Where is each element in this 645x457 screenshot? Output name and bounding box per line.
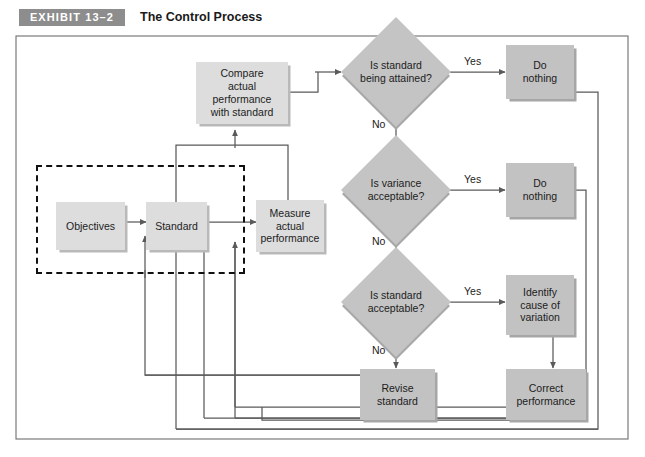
flowchart-canvas: Objectives Standard Measure actual perfo…	[0, 30, 645, 457]
node-objectives-label: Objectives	[66, 220, 115, 233]
node-standard[interactable]: Standard	[146, 202, 207, 250]
decision-is-variance-acceptable-label: Is variance acceptable?	[341, 135, 451, 245]
edge-label-no-3: No	[372, 344, 385, 356]
edge-label-yes-3: Yes	[464, 285, 481, 297]
decision-is-standard-acceptable[interactable]: Is standard acceptable?	[341, 247, 451, 357]
node-revise-standard[interactable]: Revise standard	[360, 369, 435, 420]
node-do-nothing-2[interactable]: Do nothing	[506, 163, 574, 217]
node-do-nothing-1[interactable]: Do nothing	[506, 45, 574, 99]
node-do-nothing-2-label: Do nothing	[523, 177, 557, 203]
exhibit-number-badge: EXHIBIT 13–2	[19, 9, 125, 26]
edge-label-no-1: No	[372, 118, 385, 130]
node-do-nothing-1-label: Do nothing	[523, 59, 557, 85]
node-measure-actual-performance[interactable]: Measure actual performance	[256, 200, 324, 252]
decision-is-variance-acceptable[interactable]: Is variance acceptable?	[341, 135, 451, 245]
exhibit-page: EXHIBIT 13–2 The Control Process	[0, 0, 645, 457]
exhibit-header: EXHIBIT 13–2 The Control Process	[0, 0, 645, 32]
node-identify-cause-of-variation-label: Identify cause of variation	[520, 286, 560, 324]
decision-is-standard-being-attained-label: Is standard being attained?	[341, 17, 451, 127]
node-identify-cause-of-variation[interactable]: Identify cause of variation	[506, 275, 574, 335]
node-correct-performance[interactable]: Correct performance	[506, 369, 586, 420]
decision-is-standard-being-attained[interactable]: Is standard being attained?	[341, 17, 451, 127]
node-standard-label: Standard	[155, 220, 198, 233]
node-compare-actual-performance[interactable]: Compare actual performance with standard	[196, 62, 288, 124]
node-correct-performance-label: Correct performance	[517, 382, 576, 408]
edge-label-yes-1: Yes	[464, 55, 481, 67]
node-compare-actual-performance-label: Compare actual performance with standard	[211, 67, 273, 118]
node-revise-standard-label: Revise standard	[377, 382, 418, 408]
node-objectives[interactable]: Objectives	[56, 202, 125, 250]
page-title: The Control Process	[140, 9, 262, 26]
edge-label-no-2: No	[372, 235, 385, 247]
edge-label-yes-2: Yes	[464, 173, 481, 185]
decision-is-standard-acceptable-label: Is standard acceptable?	[341, 247, 451, 357]
node-measure-actual-performance-label: Measure actual performance	[261, 207, 320, 245]
